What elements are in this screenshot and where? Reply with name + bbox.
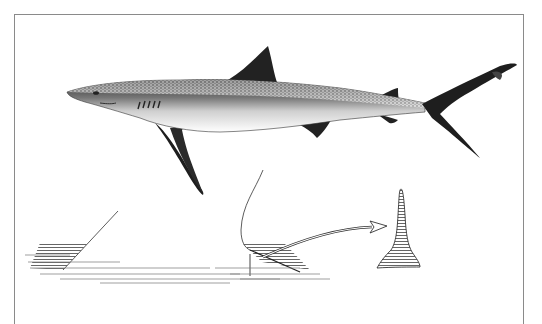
denticle-enlarged — [377, 189, 420, 268]
caudal-fin — [422, 64, 517, 158]
denticle-cross-section — [215, 170, 330, 279]
eye — [93, 91, 99, 95]
dorsal-fin — [228, 46, 278, 85]
